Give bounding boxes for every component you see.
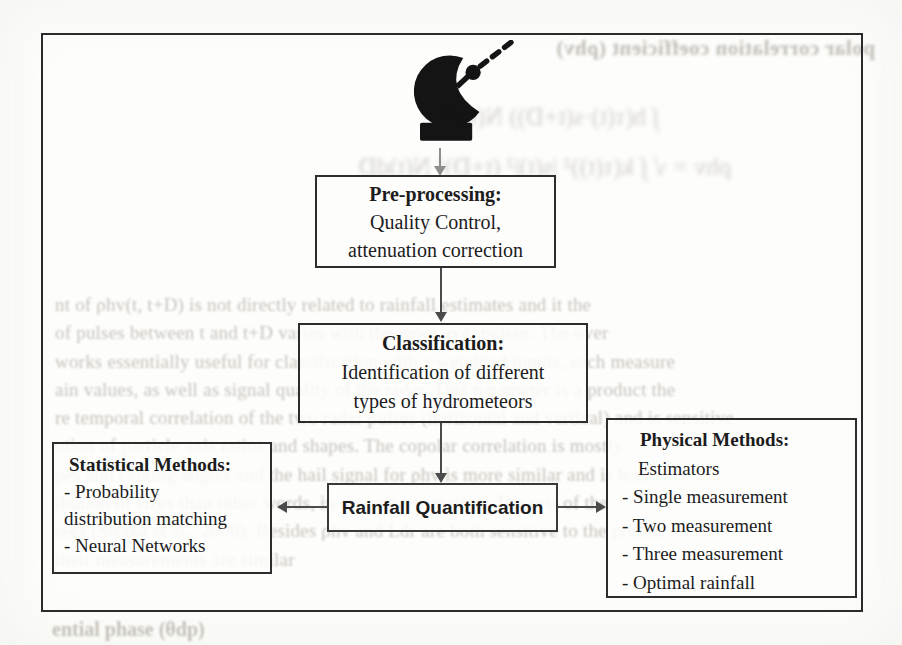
preprocessing-box: Pre-processing: Quality Control, attenua… — [315, 175, 556, 268]
statistical-methods-line: - Neural Networks — [64, 532, 262, 559]
classification-line: types of hydrometeors — [300, 387, 586, 416]
preprocessing-title: Pre-processing: — [317, 180, 554, 208]
statistical-methods-line: distribution matching — [64, 505, 262, 532]
preprocessing-line: attenuation correction — [317, 236, 554, 264]
physical-methods-title: Physical Methods: — [640, 426, 849, 455]
scanned-figure-page: polar correlation coefficient (ρhv) ∫ h(… — [0, 0, 902, 645]
physical-methods-line: - Three measurement — [622, 540, 849, 569]
radar-dish-icon — [402, 40, 519, 148]
physical-methods-line: - Single measurement — [622, 483, 849, 512]
classification-title: Classification: — [300, 329, 586, 358]
flowchart: Pre-processing: Quality Control, attenua… — [0, 0, 902, 645]
statistical-methods-box: Statistical Methods: - Probability distr… — [52, 442, 272, 574]
physical-methods-line: - Optimal rainfall — [622, 569, 849, 598]
preprocessing-line: Quality Control, — [317, 208, 554, 236]
physical-methods-box: Physical Methods: Estimators - Single me… — [606, 418, 857, 598]
classification-line: Identification of different — [300, 358, 586, 387]
rainfall-quantification-box: Rainfall Quantification — [327, 483, 558, 532]
statistical-methods-line: - Probability — [64, 478, 262, 505]
physical-methods-line: Estimators — [638, 455, 849, 484]
physical-methods-line: - Two measurement — [622, 512, 849, 541]
statistical-methods-title: Statistical Methods: — [69, 451, 262, 478]
rainfall-quantification-title: Rainfall Quantification — [342, 497, 544, 519]
classification-box: Classification: Identification of differ… — [298, 323, 588, 423]
